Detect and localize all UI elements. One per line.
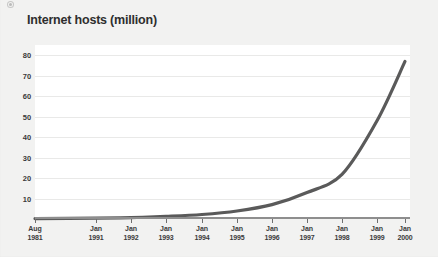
x-tick-label-month: Jan	[160, 225, 172, 232]
x-tick-label: Jan1995	[229, 225, 244, 242]
x-tick-label: Jan1994	[194, 225, 209, 242]
x-tick-label-year: 1999	[369, 234, 384, 241]
x-tick	[131, 219, 132, 223]
x-tick-label-month: Jan	[266, 225, 278, 232]
x-tick-label-month: Aug	[28, 225, 41, 232]
x-tick-label-month: Jan	[90, 225, 102, 232]
x-tick-label-year: 1997	[299, 234, 314, 241]
x-tick	[237, 219, 238, 223]
x-tick-label-year: 1996	[264, 234, 279, 241]
x-tick-label: Jan1991	[88, 225, 103, 242]
x-tick-label-year: 1991	[88, 234, 103, 241]
chart-page: Internet hosts (million) 102030405060708…	[0, 0, 438, 257]
x-tick	[307, 219, 308, 223]
y-axis: 1020304050607080	[5, 45, 31, 219]
x-tick	[405, 219, 406, 223]
x-tick-label-month: Jan	[231, 225, 243, 232]
x-tick	[272, 219, 273, 223]
scan-artifact-icon	[7, 1, 14, 8]
line-series-internet-hosts	[35, 45, 410, 219]
x-axis: Aug1981Jan1991Jan1992Jan1993Jan1994Jan19…	[35, 219, 410, 253]
x-tick-label-month: Jan	[399, 225, 411, 232]
plot-area	[35, 45, 410, 219]
x-tick-label: Jan1997	[299, 225, 314, 242]
x-tick	[96, 219, 97, 223]
y-tick-label: 10	[9, 195, 31, 204]
x-tick	[35, 219, 36, 223]
x-tick	[166, 219, 167, 223]
y-tick-label: 50	[9, 113, 31, 122]
x-tick-label-year: 1994	[194, 234, 209, 241]
x-tick-label: Jan1996	[264, 225, 279, 242]
x-tick	[377, 219, 378, 223]
y-tick-label: 80	[9, 51, 31, 60]
x-tick-label: Jan1999	[369, 225, 384, 242]
x-tick-label: Jan1998	[334, 225, 349, 242]
x-tick-label-month: Jan	[301, 225, 313, 232]
y-tick-label: 30	[9, 154, 31, 163]
y-tick-label: 20	[9, 174, 31, 183]
y-tick-label: 60	[9, 92, 31, 101]
x-tick-label: Jan2000	[397, 225, 412, 242]
x-tick-label: Aug1981	[27, 225, 42, 242]
x-tick-label-year: 1981	[27, 234, 42, 241]
x-tick	[342, 219, 343, 223]
x-tick-label-year: 1992	[123, 234, 138, 241]
y-tick-label: 70	[9, 72, 31, 81]
x-tick-label-year: 2000	[397, 234, 412, 241]
x-tick-label-year: 1998	[334, 234, 349, 241]
x-tick	[202, 219, 203, 223]
x-tick-label-year: 1995	[229, 234, 244, 241]
x-tick-label-month: Jan	[196, 225, 208, 232]
x-tick-label-month: Jan	[371, 225, 383, 232]
x-tick-label-month: Jan	[125, 225, 137, 232]
x-tick-label-year: 1993	[158, 234, 173, 241]
x-tick-label: Jan1993	[158, 225, 173, 242]
chart-title: Internet hosts (million)	[27, 13, 157, 27]
x-tick-label-month: Jan	[336, 225, 348, 232]
x-tick-label: Jan1992	[123, 225, 138, 242]
y-tick-label: 40	[9, 133, 31, 142]
